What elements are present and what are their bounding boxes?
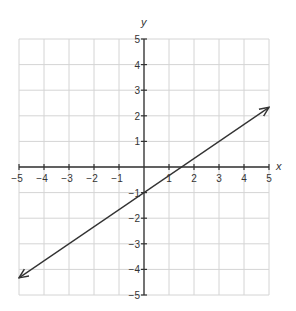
x-tick-label: −4: [36, 173, 48, 184]
y-tick-label: −4: [129, 264, 141, 275]
y-tick-label: −5: [129, 290, 141, 301]
x-tick-label: −3: [61, 173, 73, 184]
y-tick-label: −2: [129, 213, 141, 224]
axes: [19, 39, 269, 295]
coordinate-plane: −5−4−3−2−112345−5−4−3−2−112345 x y: [0, 0, 296, 311]
x-axis-label: x: [275, 160, 282, 172]
y-tick-label: 5: [134, 34, 140, 45]
y-tick-label: 4: [134, 60, 140, 71]
y-tick-label: 1: [134, 136, 140, 147]
y-axis-label: y: [140, 16, 148, 28]
x-tick-label: 4: [241, 173, 247, 184]
y-tick-label: 3: [134, 85, 140, 96]
y-tick-label: −3: [129, 239, 141, 250]
x-tick-label: 5: [266, 173, 272, 184]
x-tick-label: −1: [111, 173, 123, 184]
x-tick-label: −5: [11, 173, 23, 184]
x-tick-label: 3: [216, 173, 222, 184]
y-tick-label: 2: [134, 111, 140, 122]
x-tick-label: −2: [86, 173, 98, 184]
x-tick-label: 2: [191, 173, 197, 184]
